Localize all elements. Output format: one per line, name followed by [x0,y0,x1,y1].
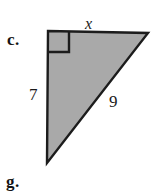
figure-container: c. x 7 9 g. [0,0,164,196]
side-label-top: x [85,16,92,32]
part-label-g: g. [6,173,20,190]
side-label-left: 7 [29,86,38,103]
right-triangle-diagram [0,0,164,196]
side-label-hypotenuse: 9 [109,93,118,110]
